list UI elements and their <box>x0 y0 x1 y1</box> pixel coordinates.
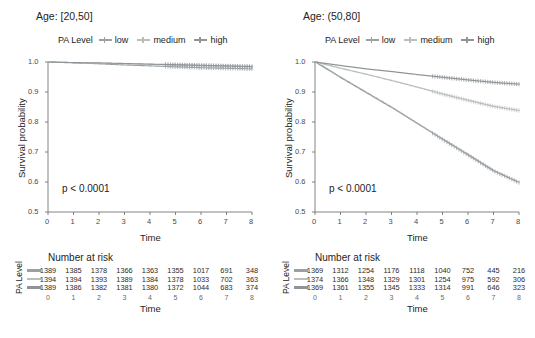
y-tick-label: 0.8 <box>295 117 305 126</box>
risk-cell: 1382 <box>88 283 110 292</box>
risk-cell: 1386 <box>63 283 85 292</box>
legend-item-medium-right[interactable]: medium <box>404 35 452 45</box>
risk-x-tick-label: 1 <box>68 294 80 301</box>
y-tick-label: 0.9 <box>28 87 38 96</box>
risk-cell: 1355 <box>355 283 377 292</box>
risk-x-tick-label: 1 <box>335 294 347 301</box>
risk-x-tick-label: 8 <box>513 294 525 301</box>
x-tick-label: 6 <box>465 217 469 226</box>
legend-label-medium: medium <box>420 35 452 45</box>
risk-cell: 646 <box>483 283 505 292</box>
pvalue-right: p < 0.0001 <box>329 183 377 194</box>
y-axis-title-left: Survival probability <box>16 98 27 178</box>
risk-cell: 323 <box>508 283 530 292</box>
x-tick-label: 4 <box>147 217 151 226</box>
x-tick-label: 1 <box>71 217 75 226</box>
legend-title-left: PA Level <box>58 35 93 45</box>
legend-item-high-right[interactable]: high <box>461 35 494 45</box>
y-tick-label: 0.6 <box>28 177 38 186</box>
x-tick-label: 6 <box>198 217 202 226</box>
legend-swatch-low-icon <box>366 39 379 41</box>
y-tick-label: 0.9 <box>295 87 305 96</box>
legend-swatch-high-icon <box>461 39 474 41</box>
risk-cell: 1389 <box>37 283 59 292</box>
risk-cell: 1314 <box>432 283 454 292</box>
risk-cell: 683 <box>216 283 238 292</box>
risk-cell: 1380 <box>139 283 161 292</box>
x-tick-label: 1 <box>338 217 342 226</box>
x-tick-label: 0 <box>45 217 49 226</box>
x-tick-label: 2 <box>363 217 367 226</box>
risk-x-tick-label: 5 <box>437 294 449 301</box>
legend-title-right: PA Level <box>325 35 360 45</box>
risk-x-tick-label: 7 <box>221 294 233 301</box>
legend-label-low: low <box>382 35 396 45</box>
risk-table-ylabel-left: PA Level <box>14 261 24 294</box>
risk-cell: 1381 <box>114 283 136 292</box>
y-tick-label: 1.0 <box>295 57 305 66</box>
pvalue-left: p < 0.0001 <box>62 183 110 194</box>
y-tick-label: 0.5 <box>28 207 38 216</box>
x-tick-label: 5 <box>173 217 177 226</box>
survival-plot-figure: Age: [20,50] PA Level low medium high Su… <box>0 0 535 338</box>
risk-cell: 1361 <box>330 283 352 292</box>
risk-cell: 374 <box>241 283 263 292</box>
legend-swatch-high-icon <box>194 39 207 41</box>
facet-title-right: Age: (50,80] <box>303 10 360 22</box>
risk-x-tick-label: 4 <box>411 294 423 301</box>
risk-x-tick-label: 6 <box>462 294 474 301</box>
x-tick-label: 0 <box>312 217 316 226</box>
risk-cell: 991 <box>457 283 479 292</box>
x-tick-label: 3 <box>389 217 393 226</box>
risk-x-tick-label: 4 <box>144 294 156 301</box>
x-tick-label: 8 <box>516 217 520 226</box>
risk-x-tick-label: 6 <box>195 294 207 301</box>
risk-x-tick-label: 7 <box>488 294 500 301</box>
risk-cell: 1333 <box>406 283 428 292</box>
legend-item-medium-left[interactable]: medium <box>137 35 185 45</box>
y-tick-label: 0.7 <box>295 147 305 156</box>
y-tick-label: 0.5 <box>295 207 305 216</box>
risk-x-tick-label: 2 <box>93 294 105 301</box>
legend-item-low-right[interactable]: low <box>366 35 396 45</box>
legend-left: PA Level low medium high <box>58 35 236 45</box>
legend-item-low-left[interactable]: low <box>99 35 129 45</box>
x-tick-label: 5 <box>440 217 444 226</box>
risk-table-title-right: Number at risk <box>315 252 380 263</box>
risk-x-axis-title: Time <box>140 303 161 314</box>
y-tick-label: 0.7 <box>28 147 38 156</box>
x-tick-label: 4 <box>414 217 418 226</box>
x-tick-label: 7 <box>224 217 228 226</box>
risk-cell: 1345 <box>381 283 403 292</box>
legend-label-low: low <box>115 35 129 45</box>
x-tick-label: 7 <box>491 217 495 226</box>
risk-table-title-left: Number at risk <box>48 252 113 263</box>
legend-item-high-left[interactable]: high <box>194 35 227 45</box>
legend-label-high: high <box>477 35 494 45</box>
risk-x-tick-label: 5 <box>170 294 182 301</box>
legend-label-high: high <box>210 35 227 45</box>
legend-swatch-medium-icon <box>404 39 417 41</box>
risk-x-tick-label: 0 <box>309 294 321 301</box>
legend-right: PA Level low medium high <box>325 35 503 45</box>
x-tick-label: 8 <box>249 217 253 226</box>
legend-swatch-medium-icon <box>137 39 150 41</box>
legend-swatch-low-icon <box>99 39 112 41</box>
risk-x-tick-label: 3 <box>119 294 131 301</box>
y-tick-label: 1.0 <box>28 57 38 66</box>
x-tick-label: 3 <box>122 217 126 226</box>
y-tick-label: 0.6 <box>295 177 305 186</box>
panel-age-50-80: Age: (50,80] PA Level low medium high Su… <box>267 0 535 338</box>
x-tick-label: 2 <box>96 217 100 226</box>
risk-x-tick-label: 3 <box>386 294 398 301</box>
x-axis-title-left: Time <box>140 232 161 243</box>
risk-x-tick-label: 8 <box>246 294 258 301</box>
risk-table-ylabel-right: PA Level <box>281 261 291 294</box>
risk-x-tick-label: 0 <box>42 294 54 301</box>
legend-label-medium: medium <box>153 35 185 45</box>
y-axis-title-right: Survival probability <box>283 98 294 178</box>
panel-age-20-50: Age: [20,50] PA Level low medium high Su… <box>0 0 267 338</box>
risk-cell: 1372 <box>165 283 187 292</box>
risk-x-tick-label: 2 <box>360 294 372 301</box>
x-axis-title-right: Time <box>407 232 428 243</box>
